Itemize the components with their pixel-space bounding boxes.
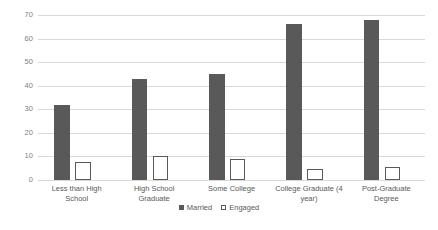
bar-chart: 010203040506070 Less than High SchoolHig… <box>0 0 438 230</box>
bar-group <box>38 15 115 180</box>
y-tick-label: 0 <box>7 176 33 184</box>
bar-married <box>286 24 301 180</box>
bar-married <box>209 74 224 180</box>
y-tick-label: 50 <box>7 58 33 66</box>
y-tick-label: 20 <box>7 129 33 137</box>
legend-item[interactable]: Engaged <box>221 204 259 212</box>
bar-married <box>54 105 69 180</box>
legend-label: Engaged <box>229 204 259 212</box>
filled-square-icon <box>179 205 184 210</box>
hollow-square-icon <box>221 205 226 210</box>
x-axis-label: Less than High School <box>38 184 115 204</box>
bar-engaged <box>153 156 168 180</box>
x-axis-label: College Graduate (4 year) <box>270 184 347 204</box>
bar-group <box>193 15 270 180</box>
bar-engaged <box>75 162 90 180</box>
legend-item[interactable]: Married <box>179 204 212 212</box>
bar-group <box>270 15 347 180</box>
y-tick-label: 60 <box>7 35 33 43</box>
x-axis-labels: Less than High SchoolHigh School Graduat… <box>38 184 425 204</box>
plot-area <box>38 15 425 180</box>
y-tick-label: 30 <box>7 105 33 113</box>
y-tick-label: 40 <box>7 82 33 90</box>
x-axis-label: High School Graduate <box>115 184 192 204</box>
bar-engaged <box>230 159 245 180</box>
chart-legend: MarriedEngaged <box>0 204 438 212</box>
bar-engaged <box>307 169 322 180</box>
bar-group <box>348 15 425 180</box>
x-axis-label: Some College <box>193 184 270 204</box>
x-axis-label: Post-Graduate Degree <box>348 184 425 204</box>
bar-engaged <box>385 167 400 180</box>
gridline-0 <box>38 180 425 181</box>
bar-groups <box>38 15 425 180</box>
legend-label: Married <box>187 204 212 212</box>
bar-married <box>364 20 379 180</box>
y-tick-label: 70 <box>7 11 33 19</box>
y-tick-label: 10 <box>7 152 33 160</box>
bar-group <box>115 15 192 180</box>
bar-married <box>132 79 147 180</box>
